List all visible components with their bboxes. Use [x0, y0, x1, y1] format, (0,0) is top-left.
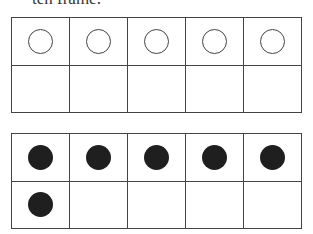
ten-frame-bottom — [11, 133, 302, 229]
empty-counter-icon — [144, 29, 169, 54]
frame-cell — [70, 182, 128, 230]
frame-cell — [128, 18, 186, 66]
frame-cell — [128, 66, 186, 114]
frame-cell — [70, 18, 128, 66]
filled-counter-icon — [260, 145, 285, 170]
frame-cell — [244, 18, 302, 66]
filled-counter-icon — [86, 145, 111, 170]
frame-cell — [186, 18, 244, 66]
frame-cell — [244, 66, 302, 114]
empty-counter-icon — [86, 29, 111, 54]
filled-counter-icon — [202, 145, 227, 170]
frame-cell — [12, 182, 70, 230]
frame-cell — [12, 134, 70, 182]
filled-counter-icon — [28, 192, 53, 217]
frame-cell — [186, 182, 244, 230]
frame-cell — [12, 18, 70, 66]
frame-cell — [128, 134, 186, 182]
ten-frame-top — [11, 17, 302, 113]
empty-counter-icon — [202, 29, 227, 54]
caption-text: ten frame. — [32, 0, 101, 8]
filled-counter-icon — [144, 145, 169, 170]
frame-cell — [244, 134, 302, 182]
frame-cell — [128, 182, 186, 230]
frame-cell — [12, 66, 70, 114]
frame-cell — [186, 134, 244, 182]
empty-counter-icon — [28, 29, 53, 54]
frame-cell — [70, 66, 128, 114]
frame-cell — [186, 66, 244, 114]
frame-cell — [70, 134, 128, 182]
filled-counter-icon — [28, 145, 53, 170]
frame-cell — [244, 182, 302, 230]
empty-counter-icon — [260, 29, 285, 54]
